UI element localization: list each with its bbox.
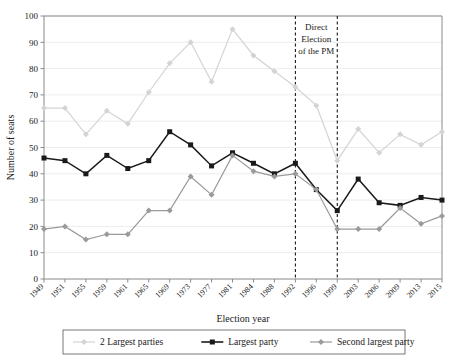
data-point — [62, 223, 68, 229]
annotation-label-line: Election — [301, 34, 331, 44]
data-point — [418, 142, 424, 148]
annotation-label-line: Direct — [305, 22, 328, 32]
x-tick-label: 1959 — [91, 282, 109, 300]
series-line-largest-party — [44, 132, 442, 211]
data-point — [293, 161, 298, 166]
y-axis-title: Number of seats — [5, 115, 16, 181]
chart-container: 0102030405060708090100194919511955195919… — [0, 0, 468, 361]
x-tick-label: 1961 — [112, 282, 130, 300]
data-point — [356, 177, 361, 182]
y-tick-label: 40 — [29, 169, 39, 179]
data-point — [209, 79, 215, 85]
x-tick-label: 1977 — [195, 282, 213, 300]
y-tick-label: 50 — [29, 143, 39, 153]
y-tick-label: 20 — [29, 222, 39, 232]
x-tick-label: 1996 — [300, 282, 318, 300]
y-tick-label: 60 — [29, 116, 39, 126]
x-tick-label: 2015 — [426, 282, 444, 300]
y-tick-label: 100 — [25, 11, 39, 21]
legend-item-label: Second largest party — [337, 337, 415, 347]
data-point — [41, 226, 47, 232]
data-point — [439, 213, 445, 219]
x-tick-label: 1965 — [132, 282, 150, 300]
data-point — [42, 156, 47, 161]
data-point — [334, 226, 340, 232]
x-tick-label: 2003 — [342, 282, 360, 300]
y-tick-label: 90 — [29, 38, 39, 48]
y-tick-label: 30 — [29, 195, 39, 205]
y-tick-label: 80 — [29, 64, 39, 74]
data-point — [83, 237, 89, 243]
data-point — [251, 161, 256, 166]
y-tick-label: 70 — [29, 90, 39, 100]
x-axis-title: Election year — [216, 313, 270, 324]
data-point — [167, 208, 173, 214]
x-tick-label: 2009 — [384, 282, 402, 300]
x-tick-label: 1955 — [70, 282, 88, 300]
data-point — [146, 158, 151, 163]
data-point — [167, 129, 172, 134]
legend-item-label: 2 Largest parties — [100, 337, 163, 347]
x-tick-label: 1999 — [321, 282, 339, 300]
data-point — [419, 195, 424, 200]
data-point — [440, 198, 445, 203]
data-point — [355, 226, 361, 232]
x-tick-label: 1969 — [153, 282, 171, 300]
data-point — [62, 158, 67, 163]
data-point — [335, 208, 340, 213]
x-tick-label: 1981 — [216, 282, 234, 300]
x-tick-label: 1992 — [279, 282, 297, 300]
election-seats-line-chart: 0102030405060708090100194919511955195919… — [0, 0, 468, 361]
data-point — [439, 129, 445, 135]
y-tick-label: 10 — [29, 248, 39, 258]
x-tick-label: 2006 — [363, 282, 381, 300]
data-point — [83, 171, 88, 176]
x-tick-label: 1951 — [49, 282, 67, 300]
data-point — [104, 231, 110, 237]
data-point — [377, 200, 382, 205]
series-line-second-largest-party — [44, 155, 442, 239]
legend-swatch-marker — [210, 340, 215, 345]
x-tick-label: 2013 — [405, 282, 423, 300]
x-tick-label: 1949 — [28, 282, 46, 300]
data-point — [41, 105, 47, 111]
data-point — [188, 142, 193, 147]
annotation-label-line: of the PM — [298, 46, 334, 56]
data-point — [125, 166, 130, 171]
data-point — [209, 163, 214, 168]
x-tick-label: 1984 — [237, 282, 255, 300]
legend-item-label: Largest party — [228, 337, 278, 347]
data-point — [104, 153, 109, 158]
x-tick-label: 1988 — [258, 282, 276, 300]
x-tick-label: 1973 — [174, 282, 192, 300]
